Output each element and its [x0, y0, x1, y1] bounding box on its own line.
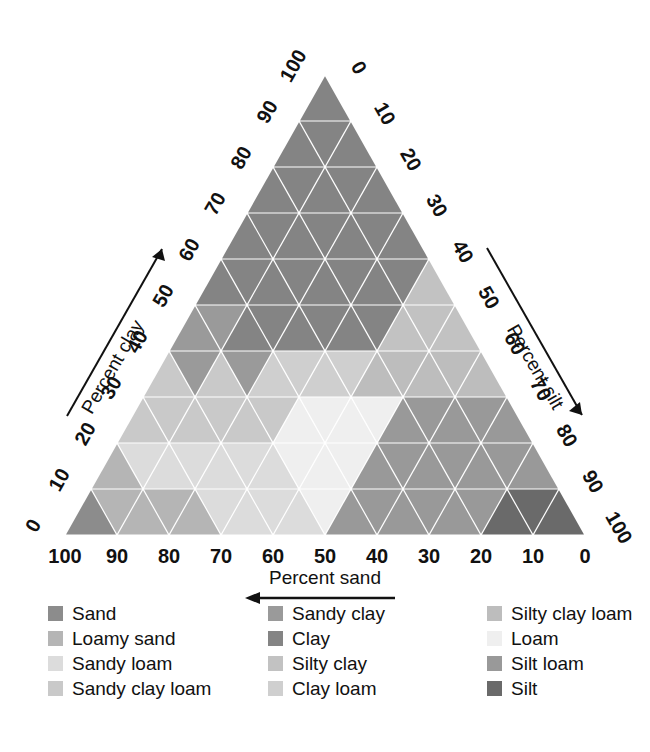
legend-swatch [487, 606, 502, 621]
tick-sand-10: 10 [522, 545, 544, 567]
tick-silt-40: 40 [448, 236, 478, 266]
ternary-cells [66, 76, 584, 534]
legend-item: Clay loam [268, 676, 385, 701]
legend-swatch [48, 606, 63, 621]
tick-clay-70: 70 [200, 188, 230, 218]
legend-label: Silt [511, 679, 537, 698]
tick-clay-10: 10 [44, 464, 74, 494]
legend-swatch [48, 656, 63, 671]
legend-item: Sandy loam [48, 651, 211, 676]
legend-item: Loamy sand [48, 626, 211, 651]
tick-clay-100: 100 [275, 46, 311, 86]
legend-label: Sand [72, 604, 116, 623]
legend-label: Sandy clay [292, 604, 385, 623]
legend-label: Silty clay loam [511, 604, 632, 623]
tick-sand-90: 90 [106, 545, 128, 567]
legend-swatch [48, 681, 63, 696]
legend-item: Silty clay loam [487, 601, 632, 626]
tick-sand-50: 50 [314, 545, 336, 567]
legend-label: Loam [511, 629, 559, 648]
tick-clay-80: 80 [226, 142, 256, 172]
legend-swatch [48, 631, 63, 646]
legend-label: Silty clay [292, 654, 367, 673]
tick-silt-10: 10 [370, 98, 400, 128]
legend-column-1: SandLoamy sandSandy loamSandy clay loam [48, 601, 211, 701]
tick-clay-60: 60 [174, 234, 204, 264]
tick-silt-90: 90 [578, 466, 608, 496]
tick-sand-40: 40 [366, 545, 388, 567]
ternary-diagram: 1009080706050403020100010203040506070809… [0, 0, 650, 601]
legend-swatch [487, 631, 502, 646]
legend-label: Sandy loam [72, 654, 172, 673]
ternary-cell [300, 76, 350, 120]
tick-clay-50: 50 [148, 280, 178, 310]
tick-sand-20: 20 [470, 545, 492, 567]
tick-silt-100: 100 [601, 508, 637, 548]
legend-item: Silt loam [487, 651, 632, 676]
legend-label: Silt loam [511, 654, 584, 673]
tick-silt-20: 20 [396, 144, 426, 174]
legend-item: Sand [48, 601, 211, 626]
tick-silt-50: 50 [474, 282, 504, 312]
legend-swatch [268, 631, 283, 646]
legend-swatch [487, 681, 502, 696]
legend-item: Loam [487, 626, 632, 651]
legend-item: Clay [268, 626, 385, 651]
legend-swatch [268, 681, 283, 696]
legend-label: Clay [292, 629, 330, 648]
tick-clay-20: 20 [70, 418, 100, 448]
tick-silt-80: 80 [552, 420, 582, 450]
tick-sand-0: 0 [579, 545, 590, 567]
tick-silt-30: 30 [422, 190, 452, 220]
legend-column-2: Sandy clayClaySilty clayClay loam [268, 601, 385, 701]
tick-clay-90: 90 [252, 96, 282, 126]
legend: SandLoamy sandSandy loamSandy clay loam … [0, 601, 650, 721]
legend-label: Loamy sand [72, 629, 176, 648]
legend-label: Sandy clay loam [72, 679, 211, 698]
soil-texture-triangle-figure: 1009080706050403020100010203040506070809… [0, 0, 650, 752]
tick-sand-100: 100 [48, 545, 81, 567]
tick-sand-80: 80 [158, 545, 180, 567]
legend-swatch [487, 656, 502, 671]
legend-item: Sandy clay loam [48, 676, 211, 701]
tick-sand-60: 60 [262, 545, 284, 567]
tick-silt-0: 0 [347, 57, 372, 78]
legend-label: Clay loam [292, 679, 376, 698]
sand-axis-title: Percent sand [269, 567, 381, 588]
legend-column-3: Silty clay loamLoamSilt loamSilt [487, 601, 632, 701]
legend-swatch [268, 656, 283, 671]
legend-item: Silty clay [268, 651, 385, 676]
legend-item: Silt [487, 676, 632, 701]
legend-item: Sandy clay [268, 601, 385, 626]
tick-sand-30: 30 [418, 545, 440, 567]
tick-sand-70: 70 [210, 545, 232, 567]
legend-swatch [268, 606, 283, 621]
tick-clay-0: 0 [21, 515, 46, 536]
